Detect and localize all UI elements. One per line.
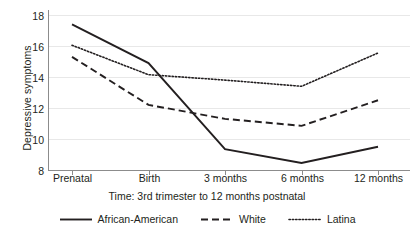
legend-item-latina[interactable]: Latina bbox=[288, 213, 356, 225]
x-tick-label: Birth bbox=[139, 172, 161, 184]
x-axis-title: Time: 3rd trimester to 12 months postnat… bbox=[0, 190, 414, 202]
x-tick-label: Prenatal bbox=[53, 172, 92, 184]
chart-figure: Depressive symptoms 81012141618 Prenatal… bbox=[0, 0, 414, 240]
y-axis-tick-labels: 81012141618 bbox=[26, 0, 44, 240]
legend-swatch-dotted-icon bbox=[288, 214, 322, 224]
y-tick-label: 16 bbox=[26, 41, 44, 53]
series-line-african-american bbox=[72, 24, 378, 163]
series-line-latina bbox=[72, 45, 378, 86]
gridlines bbox=[49, 16, 410, 171]
legend-swatch-dashed-icon bbox=[200, 214, 234, 224]
axis-lines bbox=[48, 10, 410, 171]
y-tick-label: 12 bbox=[26, 103, 44, 115]
legend-label: African-American bbox=[98, 213, 179, 225]
legend-label: White bbox=[239, 213, 266, 225]
plot-area bbox=[48, 10, 410, 175]
legend-item-white[interactable]: White bbox=[200, 213, 266, 225]
x-tick-label: 3 months bbox=[204, 172, 247, 184]
legend-item-african-american[interactable]: African-American bbox=[59, 213, 179, 225]
y-tick-label: 14 bbox=[26, 72, 44, 84]
chart-canvas bbox=[48, 10, 410, 175]
x-tick-label: 6 months bbox=[281, 172, 324, 184]
y-tick-label: 18 bbox=[26, 10, 44, 22]
legend-swatch-solid-icon bbox=[59, 214, 93, 224]
y-tick-label: 10 bbox=[26, 134, 44, 146]
series-line-white bbox=[72, 57, 378, 126]
legend-label: Latina bbox=[327, 213, 356, 225]
chart-legend: African-AmericanWhiteLatina bbox=[0, 213, 414, 225]
x-tick-label: 12 months bbox=[354, 172, 403, 184]
series-lines bbox=[72, 24, 378, 163]
